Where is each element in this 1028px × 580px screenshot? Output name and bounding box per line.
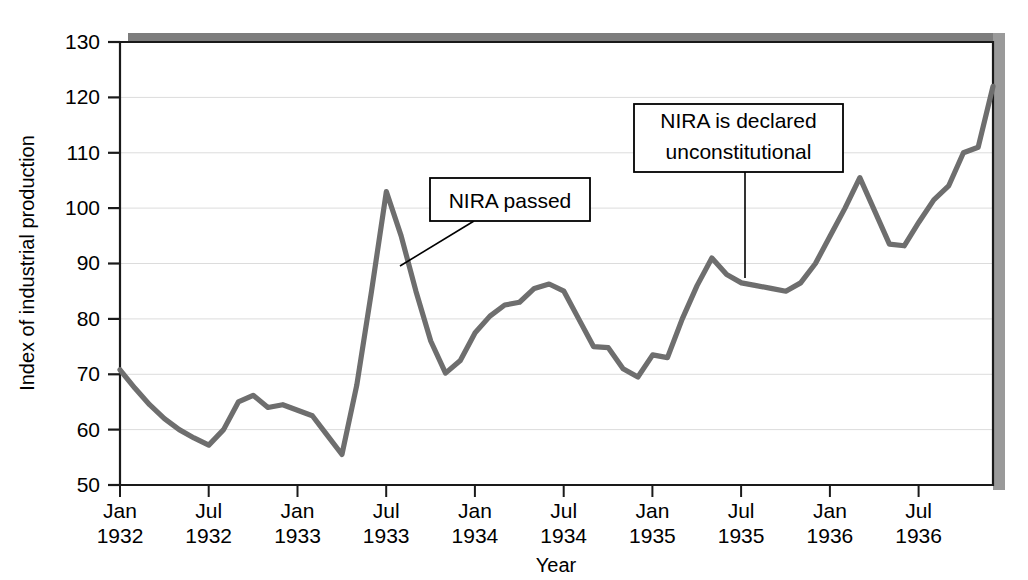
x-tick-label-month: Jul — [905, 499, 932, 522]
x-tick-label-month: Jan — [281, 499, 315, 522]
x-tick-label-month: Jan — [103, 499, 137, 522]
y-tick-label: 60 — [77, 418, 100, 441]
x-axis-ticks — [120, 485, 919, 497]
y-axis-ticks — [108, 42, 120, 485]
x-tick-label-year: 1935 — [629, 524, 676, 547]
x-tick-label-month: Jan — [635, 499, 669, 522]
y-tick-label: 80 — [77, 307, 100, 330]
industrial-production-line-chart: 130 120 110 100 90 80 70 60 50 Index of … — [0, 0, 1028, 580]
annotation-label: NIRA passed — [449, 189, 572, 212]
x-axis-tick-labels: Jan 1932 Jul 1932 Jan 1933 Jul 1933 Jan … — [97, 499, 942, 547]
y-axis-title: Index of industrial production — [16, 135, 38, 391]
x-tick-label-year: 1934 — [540, 524, 587, 547]
y-tick-label: 120 — [65, 85, 100, 108]
x-tick-label-year: 1932 — [97, 524, 144, 547]
y-tick-label: 70 — [77, 362, 100, 385]
x-tick-label-year: 1933 — [274, 524, 321, 547]
x-tick-label-year: 1932 — [185, 524, 232, 547]
x-tick-label-year: 1934 — [452, 524, 499, 547]
x-tick-label-month: Jan — [458, 499, 492, 522]
annotation-label-line1: NIRA is declared — [660, 109, 816, 132]
x-tick-label-month: Jul — [195, 499, 222, 522]
y-axis-tick-labels: 130 120 110 100 90 80 70 60 50 — [65, 30, 100, 496]
x-tick-label-year: 1936 — [807, 524, 854, 547]
y-tick-label: 110 — [67, 141, 100, 164]
x-tick-label-month: Jan — [813, 499, 847, 522]
x-tick-label-year: 1936 — [895, 524, 942, 547]
y-tick-label: 130 — [65, 30, 100, 53]
x-tick-label-month: Jul — [550, 499, 577, 522]
y-tick-label: 50 — [77, 473, 100, 496]
x-tick-label-month: Jul — [373, 499, 400, 522]
annotation-label-line2: unconstitutional — [666, 140, 812, 163]
x-tick-label-month: Jul — [728, 499, 755, 522]
x-tick-label-year: 1935 — [718, 524, 765, 547]
plot-shadow-right — [993, 33, 1005, 490]
y-tick-label: 90 — [77, 251, 100, 274]
chart-figure: 130 120 110 100 90 80 70 60 50 Index of … — [0, 0, 1028, 580]
y-tick-label: 100 — [65, 196, 100, 219]
x-tick-label-year: 1933 — [363, 524, 410, 547]
x-axis-title: Year — [536, 554, 577, 576]
